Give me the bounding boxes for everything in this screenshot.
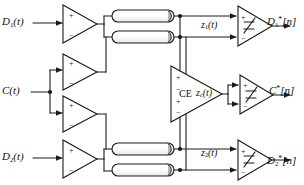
ce-plus-sign-1: +: [176, 73, 181, 82]
output-label-d2: D2*[n]: [267, 154, 296, 167]
signal-label-zc: zc(t): [196, 87, 212, 98]
driver-c-top-minus-sign: −: [69, 79, 74, 88]
slicer-d2-minus-sign: −: [241, 168, 246, 177]
transmission-line-4: [112, 164, 174, 176]
ce-block-label: CE: [179, 88, 192, 99]
figure-canvas: + − + − + − + − + − + − + − + − + − D1(t…: [0, 0, 304, 185]
transmission-line-2: [112, 31, 174, 43]
input-lead-c: [31, 70, 62, 113]
output-label-c: C*[n]: [269, 84, 294, 97]
slicer-d1-minus-sign: −: [241, 34, 246, 43]
driver-d2-minus-sign: −: [69, 166, 74, 175]
driver-d2-plus-sign: +: [69, 146, 74, 155]
circuit-diagram: + − + − + − + − + − + − + − + − + −: [0, 0, 304, 185]
driver-c-bottom-plus-sign: +: [69, 101, 74, 110]
driver-c-top-plus-sign: +: [69, 59, 74, 68]
driver-d1-outputs: [97, 16, 112, 37]
driver-d2-outputs: [97, 149, 112, 171]
input-label-d1: D1(t): [2, 15, 24, 28]
slicer-c-plus-sign: +: [243, 81, 248, 90]
input-label-d2: D2(t): [2, 150, 24, 163]
driver-c-bottom-minus-sign: −: [69, 121, 74, 130]
slicer-d1-plus-sign: +: [241, 13, 246, 22]
driver-d1-minus-sign: −: [69, 31, 74, 40]
signal-label-z1: z1(t): [201, 19, 217, 30]
slicer-c-minus-sign: −: [243, 102, 248, 111]
signal-label-z2: z2(t): [201, 147, 217, 158]
transmission-line-1: [112, 10, 174, 22]
input-label-c: C(t): [2, 84, 20, 97]
driver-c-bottom-outputs: [97, 114, 106, 149]
ce-output-wires: [222, 85, 238, 104]
driver-d1-plus-sign: +: [69, 11, 74, 20]
slicer-d2-plus-sign: +: [241, 147, 246, 156]
ce-minus-sign-2: −: [176, 108, 181, 117]
output-label-d1: D1*[n]: [267, 15, 296, 28]
transmission-line-3: [112, 143, 174, 155]
driver-c-top-outputs: [97, 37, 106, 72]
